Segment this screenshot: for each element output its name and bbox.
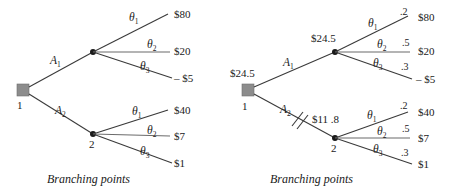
theta-subscript: 3 xyxy=(146,151,150,160)
state-label-lower-theta1: θ1 xyxy=(132,106,141,120)
payoff-lower-theta1: $40 xyxy=(418,107,435,118)
decision-tree-left: 1 A1 A2 2 θ1 θ2 θ3 $80 $20 – $5 θ1 θ2 xyxy=(0,0,224,196)
theta-subscript: 1 xyxy=(135,17,139,26)
payoff-upper-theta2: $20 xyxy=(174,46,191,57)
theta-subscript: 2 xyxy=(383,131,387,140)
action-a1-subscript: 1 xyxy=(57,60,61,69)
tree-right-lines xyxy=(225,0,449,196)
action-a2-symbol: A xyxy=(280,103,287,115)
payoff-lower-theta1: $40 xyxy=(174,105,191,116)
state-label-upper-theta3: θ3 xyxy=(373,58,382,72)
theta-subscript: 3 xyxy=(146,66,150,75)
action-a1-symbol: A xyxy=(283,56,290,68)
payoff-upper-theta1: $80 xyxy=(418,12,435,23)
action-a1-subscript: 1 xyxy=(290,62,294,71)
theta-subscript: 2 xyxy=(383,44,387,53)
branch-lower-theta2 xyxy=(93,134,170,136)
theta-subscript: 1 xyxy=(138,111,142,120)
state-label-lower-theta1: θ1 xyxy=(367,110,376,124)
theta-subscript: 3 xyxy=(379,63,383,72)
payoff-upper-theta3: – $5 xyxy=(174,73,193,84)
theta-subscript: 1 xyxy=(373,115,377,124)
payoff-upper-theta2: $20 xyxy=(418,46,435,57)
state-label-upper-theta1: θ1 xyxy=(368,18,377,32)
state-label-upper-theta2: θ2 xyxy=(147,39,156,53)
caption-left: Branching points xyxy=(47,172,130,187)
theta-subscript: 3 xyxy=(379,149,383,158)
branch-a1 xyxy=(254,52,335,87)
payoff-lower-theta3: $1 xyxy=(418,159,429,170)
chance-node-lower-label: 2 xyxy=(89,139,95,150)
payoff-lower-theta2: $7 xyxy=(418,133,429,144)
state-label-lower-theta3: θ3 xyxy=(140,146,149,160)
action-a2-subscript: 2 xyxy=(62,110,66,119)
state-label-lower-theta3: θ3 xyxy=(373,144,382,158)
decision-node-label: 1 xyxy=(17,100,23,111)
action-label-a2: A2 xyxy=(280,104,291,118)
decision-node-label: 1 xyxy=(242,101,248,112)
probability-upper-theta3: .3 xyxy=(401,62,409,72)
branch-lower-theta1 xyxy=(93,110,168,134)
decision-node-square xyxy=(17,84,29,96)
payoff-lower-theta3: $1 xyxy=(174,158,185,169)
caption-right: Branching points xyxy=(270,172,353,187)
state-label-lower-theta2: θ2 xyxy=(377,126,386,140)
payoff-lower-theta2: $7 xyxy=(174,131,185,142)
decision-tree-figure: 1 A1 A2 2 θ1 θ2 θ3 $80 $20 – $5 θ1 θ2 xyxy=(0,0,449,196)
state-label-upper-theta3: θ3 xyxy=(140,61,149,75)
probability-lower-theta3: .3 xyxy=(401,148,409,158)
chance-node-upper-expected-value: $24.5 xyxy=(311,33,336,44)
decision-node-square xyxy=(242,84,254,96)
chance-node-lower-label: 2 xyxy=(331,143,337,154)
root-expected-value: $24.5 xyxy=(230,68,255,79)
probability-upper-theta1: .2 xyxy=(400,7,408,17)
theta-subscript: 2 xyxy=(153,130,157,139)
branch-upper-theta3 xyxy=(93,52,172,78)
branch-lower-theta3 xyxy=(93,134,172,163)
state-label-upper-theta1: θ1 xyxy=(129,12,138,26)
chance-node-lower-expected-value: $11 .8 xyxy=(312,114,339,125)
payoff-upper-theta1: $80 xyxy=(174,9,191,20)
action-a2-subscript: 2 xyxy=(287,109,291,118)
payoff-upper-theta3: – $5 xyxy=(416,74,435,85)
theta-subscript: 1 xyxy=(374,23,378,32)
branch-a1 xyxy=(29,52,93,87)
tree-left-lines xyxy=(0,0,224,196)
action-label-a1: A1 xyxy=(50,55,61,69)
probability-upper-theta2: .5 xyxy=(402,38,410,48)
pruning-mark-icon xyxy=(292,112,308,129)
theta-subscript: 2 xyxy=(153,44,157,53)
action-label-a1: A1 xyxy=(283,57,294,71)
state-label-lower-theta2: θ2 xyxy=(147,125,156,139)
action-a1-symbol: A xyxy=(50,54,57,66)
decision-tree-right: $24.5 1 $24.5 $11 .8 2 A1 A2 θ1 θ2 θ3 .2… xyxy=(225,0,449,196)
probability-lower-theta2: .5 xyxy=(402,124,410,134)
action-a2-symbol: A xyxy=(55,104,62,116)
action-label-a2: A2 xyxy=(55,105,66,119)
probability-lower-theta1: .2 xyxy=(400,101,408,111)
state-label-upper-theta2: θ2 xyxy=(377,39,386,53)
